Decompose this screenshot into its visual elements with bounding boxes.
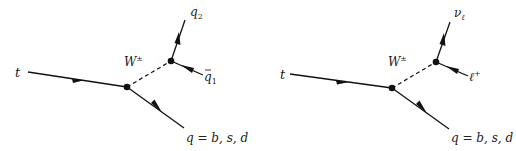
vertex — [124, 84, 131, 91]
svg-text:q1: q1 — [204, 70, 217, 86]
label-outgoing-quark: q = b, s, d — [451, 131, 513, 145]
outgoing-quark-line — [127, 87, 184, 128]
label-q1bar: q1 — [204, 70, 217, 86]
arrow-icon — [181, 65, 194, 73]
label-neutrino: νℓ — [454, 6, 465, 22]
outgoing-quark-line — [392, 88, 449, 129]
vertex — [433, 59, 440, 66]
top-quark-line — [28, 72, 127, 87]
label-outgoing-quark: q = b, s, d — [186, 131, 248, 145]
label-w: W± — [388, 54, 407, 69]
arrow-icon — [446, 66, 459, 74]
diagram-hadronic: t W± q2 q1 q = b, s, d — [15, 5, 248, 145]
vertex — [168, 58, 175, 65]
label-t: t — [280, 67, 286, 82]
label-w: W± — [124, 54, 143, 69]
feynman-diagrams: t W± q2 q1 q = b, s, d t W± νℓ ℓ+ q = b,… — [0, 0, 516, 151]
label-q2: q2 — [190, 5, 203, 21]
arrow-icon — [440, 33, 446, 46]
vertex — [389, 85, 396, 92]
diagram-leptonic: t W± νℓ ℓ+ q = b, s, d — [280, 6, 513, 145]
label-lepton: ℓ+ — [469, 69, 481, 84]
label-t: t — [15, 65, 21, 80]
top-quark-line — [290, 74, 392, 88]
